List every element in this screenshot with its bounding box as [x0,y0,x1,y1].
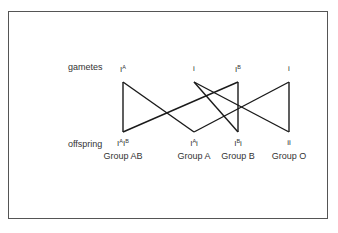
cross-lines [0,0,338,233]
cross-line [194,82,238,132]
cross-line [123,82,238,132]
cross-line [123,82,194,132]
